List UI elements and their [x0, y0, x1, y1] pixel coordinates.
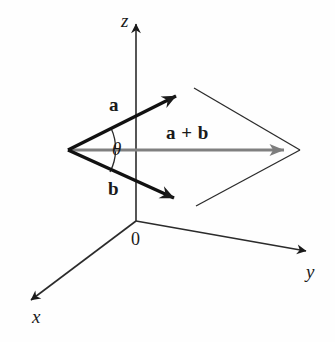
x-axis-line [31, 221, 136, 300]
parallelogram-side-bottom [196, 150, 300, 206]
x-axis-label: x [32, 307, 40, 326]
vector-sum-label: a + b [166, 123, 209, 142]
diagram-canvas [0, 0, 335, 342]
parallelogram-side-top [194, 88, 300, 150]
y-axis-line [136, 221, 306, 251]
parallelogram-sides [194, 88, 300, 206]
axes-group [31, 24, 306, 300]
z-axis-label: z [121, 11, 128, 30]
vector-a-line [68, 96, 176, 150]
origin-label: 0 [131, 230, 140, 248]
vector-b-label: b [108, 179, 119, 198]
vector-diagram-figure: z y x 0 a b θ a + b [0, 0, 335, 342]
y-axis-label: y [306, 262, 314, 281]
angle-theta-label: θ [112, 139, 121, 158]
vector-a-label: a [109, 95, 119, 114]
